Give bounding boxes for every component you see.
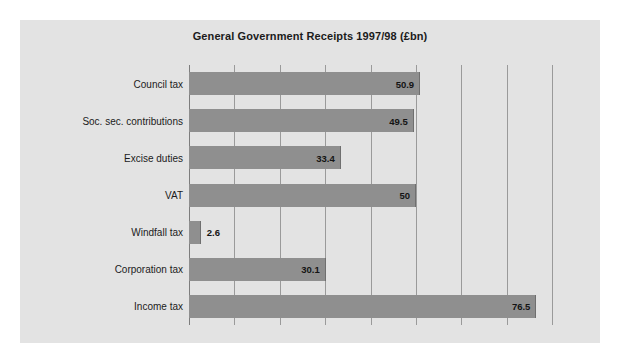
bar bbox=[189, 184, 416, 207]
bar-row: Income tax76.5 bbox=[189, 295, 575, 318]
bar-row: Windfall tax2.6 bbox=[189, 221, 575, 244]
chart-frame: General Government Receipts 1997/98 (£bn… bbox=[20, 20, 600, 343]
category-label: Soc. sec. contributions bbox=[82, 115, 183, 126]
bar bbox=[189, 295, 536, 318]
chart-title: General Government Receipts 1997/98 (£bn… bbox=[20, 30, 600, 42]
bar-value-label: 50 bbox=[399, 190, 410, 201]
bar-value-label: 49.5 bbox=[389, 115, 408, 126]
category-label: Windfall tax bbox=[131, 227, 183, 238]
bar-row: Council tax50.9 bbox=[189, 72, 575, 95]
bar-value-label: 33.4 bbox=[316, 152, 335, 163]
bar-value-label: 76.5 bbox=[512, 301, 531, 312]
category-label: Corporation tax bbox=[115, 264, 183, 275]
bar-value-label: 30.1 bbox=[301, 264, 320, 275]
bar-row: VAT50 bbox=[189, 184, 575, 207]
bar-value-label: 2.6 bbox=[207, 227, 220, 238]
bar bbox=[189, 221, 201, 244]
bar bbox=[189, 72, 420, 95]
category-label: Income tax bbox=[134, 301, 183, 312]
category-label: Council tax bbox=[134, 78, 183, 89]
bar-value-label: 50.9 bbox=[396, 78, 415, 89]
bar-row: Corporation tax30.1 bbox=[189, 258, 575, 281]
category-label: Excise duties bbox=[124, 152, 183, 163]
bar-row: Excise duties33.4 bbox=[189, 146, 575, 169]
plot-area: Council tax50.9Soc. sec. contributions49… bbox=[189, 65, 575, 325]
category-label: VAT bbox=[165, 190, 183, 201]
bar bbox=[189, 109, 414, 132]
bar-row: Soc. sec. contributions49.5 bbox=[189, 109, 575, 132]
